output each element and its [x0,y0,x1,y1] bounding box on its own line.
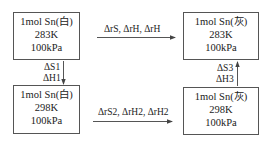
temperature-label: 298K [14,101,79,114]
pressure-label: 100kPa [14,114,79,127]
state-box-top-left: 1mol Sn(白) 283K 100kPa [13,12,80,60]
pressure-label: 100kPa [184,41,258,54]
pressure-label: 100kPa [184,116,258,129]
left-arrow-label-enthalpy: ΔH1 [43,73,61,84]
left-arrow-label-entropy: ΔS1 [44,62,60,73]
substance-label: 1mol Sn(白) [14,15,79,28]
bottom-arrow-label: ΔrS2, ΔrH2, ΔrH2 [98,107,169,118]
state-box-top-right: 1mol Sn(灰) 283K 100kPa [183,12,259,60]
top-arrow-label: ΔrS, ΔrH, ΔrH [104,24,160,35]
substance-label: 1mol Sn(灰) [184,15,258,28]
right-arrow-label-entropy: ΔS3 [217,63,233,74]
state-box-bottom-left: 1mol Sn(白) 298K 100kPa [13,85,80,134]
substance-label: 1mol Sn(白) [14,88,79,101]
pressure-label: 100kPa [14,41,79,54]
right-arrow-label-enthalpy: ΔH3 [216,74,234,85]
temperature-label: 298K [184,103,258,116]
temperature-label: 283K [184,28,258,41]
state-box-bottom-right: 1mol Sn(灰) 298K 100kPa [183,87,259,135]
temperature-label: 283K [14,28,79,41]
substance-label: 1mol Sn(灰) [184,90,258,103]
